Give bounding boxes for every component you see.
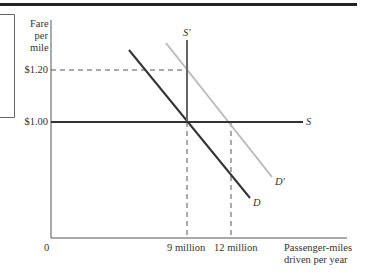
origin-label: 0: [44, 242, 49, 254]
demand-curve-d-prime: [166, 43, 272, 177]
curve-label-s-prime: S′: [183, 27, 191, 39]
chart-canvas: [0, 0, 372, 277]
x-axis-label: Passenger-miles driven per year: [284, 242, 352, 266]
x-tick-label-9m: 9 million: [167, 242, 205, 254]
top-rule: [0, 3, 357, 6]
y-tick-label-100: $1.00: [24, 116, 48, 128]
y-tick-label-120: $1.20: [24, 64, 48, 76]
x-axis-label-line: Passenger-miles: [284, 242, 352, 254]
x-tick-label-12m: 12 million: [214, 242, 257, 254]
y-axis-label-line: Fare: [30, 18, 48, 30]
curve-label-d: D: [253, 197, 261, 209]
y-axis-label-line: per: [30, 30, 48, 42]
x-axis-label-line: driven per year: [284, 254, 352, 266]
curve-label-s: S: [306, 116, 311, 128]
y-axis-label: Fare per mile: [30, 18, 48, 54]
y-axis-label-line: mile: [30, 42, 48, 54]
side-box: [0, 15, 15, 118]
curve-label-d-prime: D′: [275, 176, 285, 188]
